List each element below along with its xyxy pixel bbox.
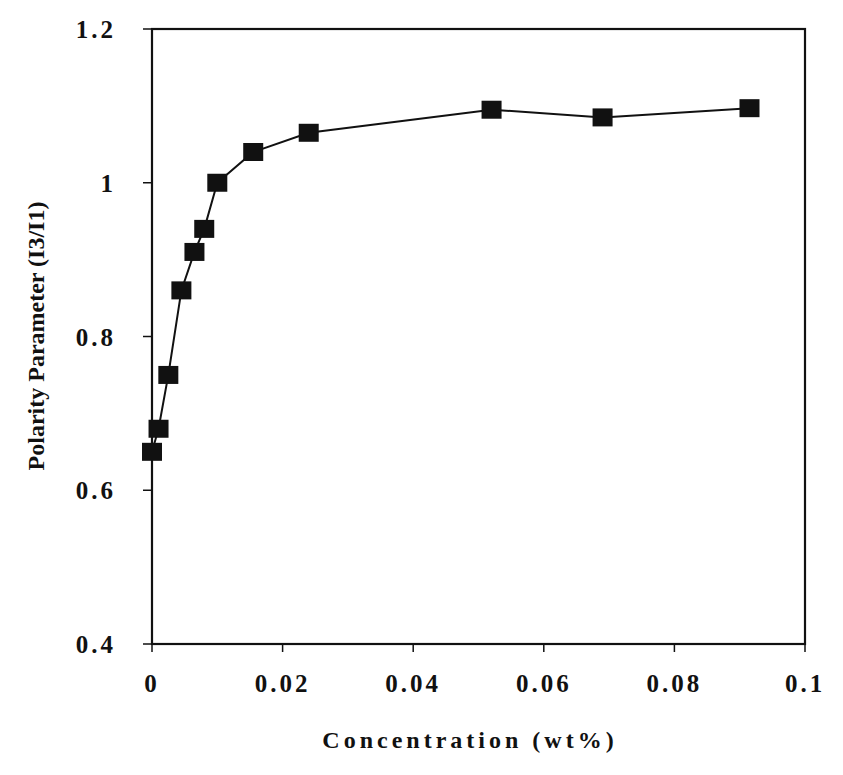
data-series-line — [152, 108, 749, 452]
y-axis-ticks: 0.40.60.811.2 — [76, 16, 152, 658]
square-marker — [482, 101, 502, 119]
polarity-chart: 00.020.040.060.080.1 0.40.60.811.2 Conce… — [0, 0, 843, 775]
y-axis-title: Polarity Parameter (I3/I1) — [23, 202, 49, 471]
x-tick-label: 0.06 — [516, 670, 572, 697]
square-marker — [184, 243, 204, 261]
data-series-markers — [142, 99, 759, 461]
plot-border — [152, 29, 805, 644]
series-polyline — [152, 108, 749, 452]
x-tick-label: 0.02 — [255, 670, 311, 697]
y-tick-label: 1.2 — [76, 16, 116, 43]
square-marker — [243, 143, 263, 161]
x-axis-title: Concentration (wt%) — [322, 727, 617, 753]
y-tick-label: 0.8 — [76, 324, 116, 351]
y-tick-label: 0.6 — [76, 477, 116, 504]
y-tick-label: 1 — [101, 170, 117, 197]
x-tick-label: 0.04 — [385, 670, 441, 697]
x-tick-label: 0 — [144, 670, 160, 697]
plot-frame — [152, 29, 805, 644]
square-marker — [299, 124, 319, 142]
square-marker — [142, 443, 162, 461]
y-tick-label: 0.4 — [76, 631, 116, 658]
x-tick-label: 0.1 — [785, 670, 825, 697]
square-marker — [149, 420, 169, 438]
square-marker — [739, 99, 759, 117]
square-marker — [171, 281, 191, 299]
square-marker — [593, 108, 613, 126]
x-tick-label: 0.08 — [647, 670, 703, 697]
x-axis-ticks: 00.020.040.060.080.1 — [144, 644, 825, 697]
square-marker — [158, 366, 178, 384]
square-marker — [207, 174, 227, 192]
square-marker — [194, 220, 214, 238]
